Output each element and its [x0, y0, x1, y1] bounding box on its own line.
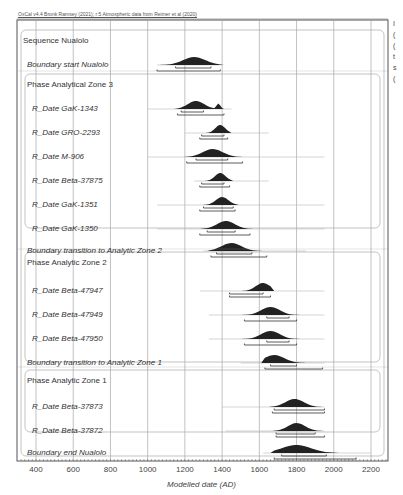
group-title: Sequence Nualolo [23, 36, 88, 45]
rdate-label: R_Date Beta-47950 [32, 334, 103, 343]
rdate-label: R_Date Beta-37872 [32, 426, 103, 435]
group-title: Phase Analytic Zone 2 [27, 258, 107, 267]
rdate-label: R_Date GRO-2293 [32, 128, 100, 137]
x-tick-label: 2000 [325, 465, 343, 474]
x-tick-label: 800 [104, 465, 117, 474]
rdate-label: R_Date GaK-1343 [32, 104, 98, 113]
rdate-label: R_Date Beta-37875 [32, 176, 103, 185]
boundary-label: Boundary start Nualolo [27, 60, 108, 69]
boundary-label: Boundary end Nualolo [27, 448, 106, 457]
rdate-label: R_Date M-906 [32, 152, 84, 161]
x-tick-label: 1200 [176, 465, 194, 474]
rdate-label: R_Date Beta-47947 [32, 286, 103, 295]
x-axis-label: Modelled date (AD) [0, 480, 403, 489]
rdate-label: R_Date Beta-47949 [32, 310, 103, 319]
x-tick-label: 1600 [250, 465, 268, 474]
rdate-label: R_Date Beta-37873 [32, 402, 103, 411]
x-tick-label: 400 [29, 465, 42, 474]
rdate-label: R_Date GaK-1351 [32, 200, 98, 209]
group-title: Phase Analytical Zone 3 [27, 80, 113, 89]
x-tick-label: 1400 [213, 465, 231, 474]
boundary-label: Boundary transition to Analytic Zone 2 [27, 246, 162, 255]
x-tick-label: 2200 [362, 465, 380, 474]
x-tick-label: 600 [67, 465, 80, 474]
x-tick-label: 1800 [288, 465, 306, 474]
group-title: Phase Analytic Zone 1 [27, 376, 107, 385]
rdate-label: R_Date GaK-1350 [32, 224, 98, 233]
boundary-label: Boundary transition to Analytic Zone 1 [27, 358, 162, 367]
x-tick-label: 1000 [139, 465, 157, 474]
